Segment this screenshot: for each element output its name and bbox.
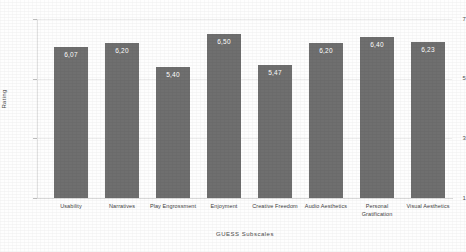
- y-axis-title: Rating: [1, 89, 7, 108]
- bar-group[interactable]: 6,20 Narratives: [97, 19, 147, 198]
- bar-rect[interactable]: 6,20: [309, 43, 343, 198]
- bar-category-label: Enjoyment: [197, 203, 251, 211]
- bar-chart-figure: 7 5 3 1 Rating GUESS Subscales 6,07 Usab…: [0, 0, 466, 252]
- bar-category-label: Usability: [44, 203, 98, 211]
- bar-value-label: 6,50: [207, 38, 241, 45]
- bar-rect[interactable]: 5,40: [156, 67, 190, 198]
- y-tick-mark-1: [33, 198, 37, 199]
- bar-group[interactable]: 6,40 Personal Gratification: [352, 19, 402, 198]
- bar-value-label: 6,07: [54, 51, 88, 58]
- x-axis-spine: [37, 198, 453, 199]
- bar-category-label: Play Engrossment: [146, 203, 200, 211]
- bar-category-label: Visual Aesthetics: [401, 203, 455, 211]
- bar-value-label: 5,47: [258, 69, 292, 76]
- bar-rect[interactable]: 6,50: [207, 34, 241, 198]
- bar-group[interactable]: 6,50 Enjoyment: [199, 19, 249, 198]
- bar-category-label: Audio Aesthetics: [299, 203, 353, 211]
- bar-value-label: 6,20: [105, 47, 139, 54]
- bar-value-label: 6,40: [360, 41, 394, 48]
- bar-group[interactable]: 5,47 Creative Freedom: [250, 19, 300, 198]
- bar-category-label: Narratives: [95, 203, 149, 211]
- bar-value-label: 5,40: [156, 71, 190, 78]
- y-tick-mark-5: [33, 79, 37, 80]
- bar-rect[interactable]: 6,40: [360, 37, 394, 198]
- bar-group[interactable]: 5,40 Play Engrossment: [148, 19, 198, 198]
- bar-group[interactable]: 6,07 Usability: [46, 19, 96, 198]
- bar-category-label: Creative Freedom: [248, 203, 302, 211]
- y-tick-mark-3: [33, 138, 37, 139]
- bars-layer: 6,07 Usability 6,20 Narratives 5,40 Play…: [38, 19, 452, 198]
- bar-rect[interactable]: 6,20: [105, 43, 139, 198]
- bar-rect[interactable]: 5,47: [258, 65, 292, 198]
- bar-group[interactable]: 6,23 Visual Aesthetics: [403, 19, 453, 198]
- bar-value-label: 6,23: [411, 46, 445, 53]
- bar-group[interactable]: 6,20 Audio Aesthetics: [301, 19, 351, 198]
- bar-category-label: Personal Gratification: [350, 203, 404, 218]
- x-axis-title: GUESS Subscales: [0, 231, 466, 237]
- bar-value-label: 6,20: [309, 47, 343, 54]
- bar-rect[interactable]: 6,23: [411, 42, 445, 198]
- bar-rect[interactable]: 6,07: [54, 47, 88, 198]
- y-tick-mark-7: [33, 19, 37, 20]
